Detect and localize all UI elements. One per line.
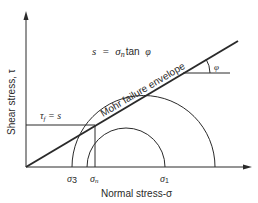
angle-arc — [206, 59, 210, 73]
tau-f-label: τf = s — [40, 110, 61, 123]
x-tick-sigma3: σ3 — [67, 173, 77, 185]
equation: s = σntan φ — [92, 45, 151, 59]
x-axis-arrow-icon — [243, 165, 252, 170]
angle-label: φ — [214, 62, 219, 72]
small-mohr-circle — [87, 128, 165, 167]
y-axis-label: Shear stress, τ — [6, 69, 17, 135]
x-axis-label: Normal stress-σ — [101, 188, 173, 199]
large-mohr-circle — [72, 95, 215, 167]
x-tick-sigman: σn — [90, 173, 99, 185]
envelope-label: Mohr failure envelope — [98, 60, 187, 119]
x-tick-sigma1: σ1 — [160, 173, 169, 184]
y-axis-arrow-icon — [24, 11, 29, 20]
mohr-diagram: s = σntan φ Mohr failure envelope φ τf =… — [0, 0, 258, 203]
